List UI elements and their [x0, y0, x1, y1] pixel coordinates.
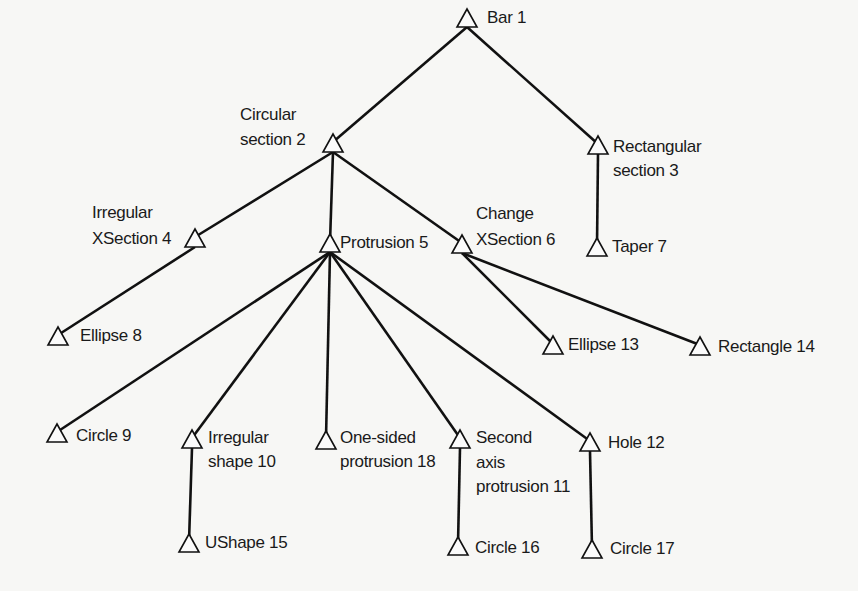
node-label: Bar 1 [487, 8, 526, 27]
node-label: section 2 [240, 130, 305, 149]
node-label: section 3 [613, 161, 678, 180]
node-label: Ellipse 13 [568, 335, 639, 354]
node-label: Circle 17 [610, 539, 674, 558]
node-label: Second [476, 428, 532, 447]
node-label: Circle 9 [76, 426, 131, 445]
tree-node-7: Taper 7 [587, 237, 667, 256]
node-label: shape 10 [208, 452, 276, 471]
node-label: protrusion 18 [340, 452, 435, 471]
node-label: protrusion 11 [476, 477, 570, 496]
background [0, 0, 858, 591]
node-label: Irregular [92, 203, 153, 222]
tree-node-1: Bar 1 [457, 8, 526, 27]
node-label: Taper 7 [612, 237, 667, 256]
feature-tree-diagram: Bar 1Circularsection 2Rectangularsection… [0, 0, 858, 591]
edge-3-7 [597, 154, 598, 246]
node-label: Rectangle 14 [718, 337, 815, 356]
node-label: Hole 12 [608, 433, 665, 452]
node-label: XSection 6 [476, 230, 555, 249]
node-label: Rectangular [613, 137, 702, 156]
node-label: Protrusion 5 [340, 233, 428, 252]
node-label: UShape 15 [205, 533, 287, 552]
node-label: One-sided [340, 428, 416, 447]
node-label: Irregular [208, 428, 269, 447]
node-label: XSection 4 [92, 229, 171, 248]
node-label: Change [476, 204, 534, 223]
tree-node-9: Circle 9 [47, 424, 131, 445]
node-label: axis [476, 453, 505, 472]
node-label: Ellipse 8 [80, 326, 142, 345]
node-label: Circle 16 [475, 538, 539, 557]
node-label: Circular [240, 105, 297, 124]
